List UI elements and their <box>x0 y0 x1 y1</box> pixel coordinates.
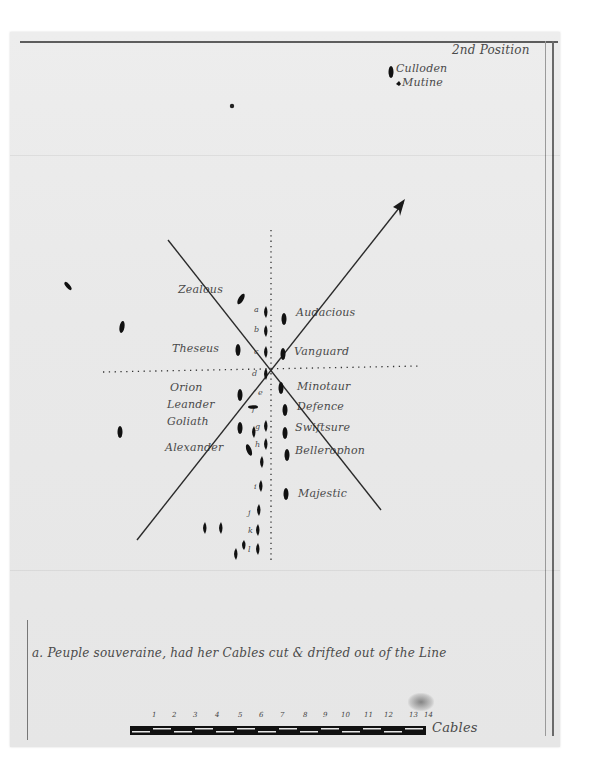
enemy-ship <box>260 456 264 468</box>
scale-tick: 7 <box>280 711 284 719</box>
ship-marker <box>242 540 246 550</box>
scale-tick: 9 <box>323 711 327 719</box>
scale-tick: 10 <box>341 711 350 719</box>
ship-marker-mutine <box>396 81 401 86</box>
ship-marker-swiftsure <box>283 427 288 439</box>
ship-marker <box>118 426 123 438</box>
scale-tick: 8 <box>303 711 307 719</box>
scale-tick: 5 <box>238 711 242 719</box>
ink-spot <box>230 104 234 108</box>
ink-smudge <box>408 693 434 711</box>
ship-marker-audacious <box>282 313 287 325</box>
ship-marker-bellerophon <box>285 449 290 461</box>
ship-marker-goliath <box>238 422 243 434</box>
scale-tick: 6 <box>259 711 263 719</box>
ship-marker-zealous <box>236 293 246 306</box>
ship-marker-theseus <box>236 344 241 356</box>
enemy-ship-c <box>264 346 268 358</box>
scale-tick: 4 <box>215 711 219 719</box>
ship-marker <box>63 281 72 291</box>
footnote-peuple-souverain: a. Peuple souveraine, had her Cables cut… <box>32 646 447 660</box>
enemy-ship-k <box>256 524 260 536</box>
enemy-ship-l <box>256 543 260 555</box>
ship-marker <box>203 522 207 534</box>
ship-marker <box>234 548 238 560</box>
ship-marker-culloden <box>389 66 394 78</box>
enemy-ship-b <box>264 325 268 337</box>
scale-tick: 1 <box>152 711 156 719</box>
enemy-ship-g <box>264 420 268 432</box>
scale-tick: 13 <box>409 711 418 719</box>
enemy-ship-h <box>264 438 268 450</box>
ship-marker <box>219 522 223 534</box>
scale-tick: 3 <box>193 711 197 719</box>
scale-tick: 11 <box>364 711 373 719</box>
ship-marker-minotaur <box>279 382 284 394</box>
ship-marker-vanguard <box>281 348 286 360</box>
ship-marker-leander <box>248 405 258 409</box>
ship-marker <box>118 321 125 334</box>
enemy-ship-a <box>264 306 268 318</box>
ship-marker-defence <box>283 404 288 416</box>
enemy-ship-j <box>257 504 261 516</box>
scale-unit-label: Cables <box>432 720 478 735</box>
scale-tick: 2 <box>172 711 176 719</box>
ship-marker-majestic <box>284 488 289 500</box>
ship-marker-orion <box>238 389 243 401</box>
ship-marker-alexander <box>245 444 254 457</box>
scale-tick: 12 <box>384 711 393 719</box>
scale-bar <box>130 726 426 735</box>
enemy-ship <box>252 426 256 438</box>
enemy-ship-i <box>259 480 263 492</box>
dotted-horizontal-axis <box>103 366 420 372</box>
diagonal-line-descending <box>168 240 381 510</box>
wind-direction-arrow-line <box>137 203 403 540</box>
scale-tick: 14 <box>424 711 433 719</box>
